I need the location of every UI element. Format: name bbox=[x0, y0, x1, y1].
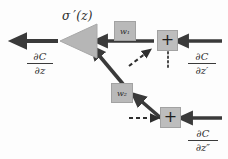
weight-upper-label: w₁ bbox=[120, 27, 130, 36]
upper-input-gradient-denominator: ∂z′ bbox=[182, 64, 222, 76]
output-gradient-denominator: ∂z bbox=[20, 64, 60, 76]
sum-lower-label: + bbox=[164, 109, 177, 125]
sum-node-upper[interactable]: + bbox=[157, 30, 178, 51]
activation-derivative-label: σ ′(z) bbox=[62, 10, 93, 22]
lower-input-gradient-denominator: ∂z″ bbox=[182, 141, 224, 153]
weight-node-lower[interactable]: w₂ bbox=[111, 83, 133, 103]
figure-canvas: σ ′(z) w₁ w₂ + + ∂C ∂z ∂C ∂z′ ∂C ∂z″ bbox=[0, 0, 228, 159]
weight-node-upper[interactable]: w₁ bbox=[114, 21, 136, 41]
sumlower-to-weight-arrow bbox=[133, 94, 162, 119]
upper-input-gradient-numerator: ∂C bbox=[182, 51, 222, 63]
lower-input-gradient-numerator: ∂C bbox=[182, 128, 224, 140]
weight-lower-label: w₂ bbox=[117, 89, 127, 98]
output-gradient-label: ∂C ∂z bbox=[20, 51, 60, 76]
dashed-diagonal-arrow-upper bbox=[129, 50, 150, 66]
sigma-prime-triangle-node[interactable] bbox=[60, 24, 97, 58]
upper-input-gradient-label: ∂C ∂z′ bbox=[182, 51, 222, 76]
output-gradient-numerator: ∂C bbox=[20, 51, 60, 63]
lower-input-gradient-label: ∂C ∂z″ bbox=[182, 128, 224, 153]
sum-upper-label: + bbox=[161, 32, 174, 48]
sum-node-lower[interactable]: + bbox=[160, 107, 181, 128]
